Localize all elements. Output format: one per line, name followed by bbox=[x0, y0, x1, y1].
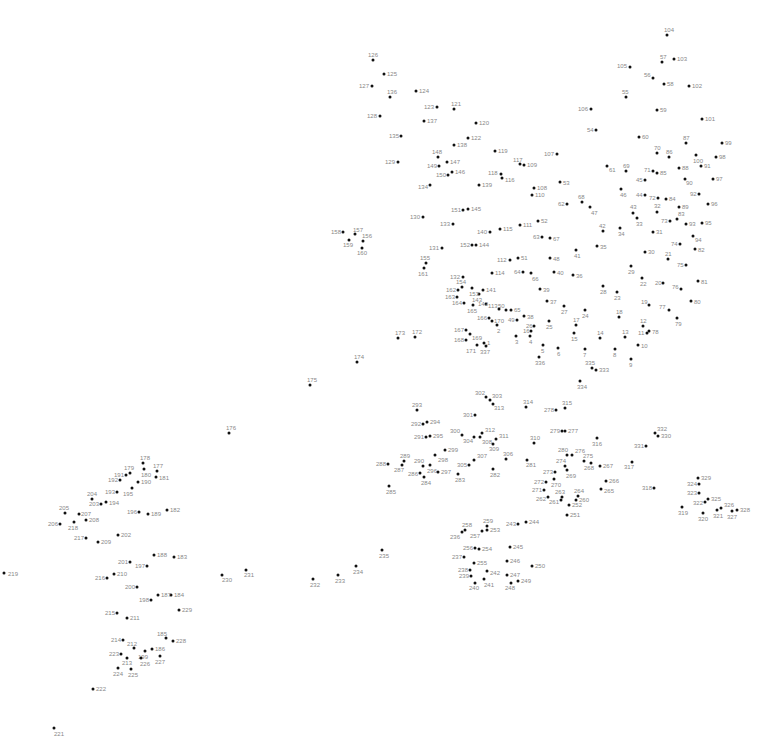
dot-number-label: 298 bbox=[438, 457, 448, 463]
dot-number-label: 162 bbox=[446, 287, 456, 293]
dot-number-label: 189 bbox=[151, 511, 161, 517]
dot-number-label: 21 bbox=[665, 251, 672, 257]
puzzle-dot bbox=[533, 187, 536, 190]
puzzle-dot bbox=[517, 257, 520, 260]
puzzle-dot bbox=[695, 154, 698, 157]
dot-number-label: 137 bbox=[427, 118, 437, 124]
dot-number-label: 260 bbox=[579, 497, 589, 503]
dot-number-label: 97 bbox=[716, 176, 723, 182]
dot-number-label: 280 bbox=[558, 447, 568, 453]
dot-number-label: 268 bbox=[584, 465, 594, 471]
dot-number-label: 87 bbox=[683, 135, 690, 141]
dot-number-label: 1 bbox=[487, 340, 490, 346]
dot-number-label: 274 bbox=[556, 458, 566, 464]
puzzle-dot bbox=[561, 430, 564, 433]
puzzle-dot bbox=[559, 181, 562, 184]
puzzle-dot bbox=[465, 329, 468, 332]
puzzle-dot bbox=[679, 243, 682, 246]
dot-number-label: 198 bbox=[139, 597, 149, 603]
dot-number-label: 75 bbox=[677, 262, 684, 268]
puzzle-dot bbox=[157, 594, 160, 597]
puzzle-dot bbox=[720, 507, 723, 510]
dot-number-label: 8 bbox=[613, 352, 616, 358]
dot-number-label: 70 bbox=[654, 145, 661, 151]
puzzle-dot bbox=[554, 471, 557, 474]
dot-number-label: 112 bbox=[497, 257, 507, 263]
dot-number-label: 117 bbox=[513, 157, 523, 163]
puzzle-dot bbox=[499, 228, 502, 231]
dot-number-label: 152 bbox=[460, 242, 470, 248]
puzzle-dot bbox=[629, 66, 632, 69]
dot-number-label: 182 bbox=[170, 507, 180, 513]
puzzle-dot bbox=[414, 336, 417, 339]
dot-number-label: 20 bbox=[655, 280, 662, 286]
puzzle-dot bbox=[461, 286, 464, 289]
dot-number-label: 172 bbox=[412, 329, 422, 335]
dot-number-label: 150 bbox=[436, 172, 446, 178]
dot-number-label: 218 bbox=[68, 525, 78, 531]
puzzle-dot bbox=[436, 106, 439, 109]
dot-number-label: 186 bbox=[155, 646, 165, 652]
dot-number-label: 285 bbox=[386, 489, 396, 495]
dot-number-label: 190 bbox=[141, 479, 151, 485]
puzzle-dot bbox=[482, 289, 485, 292]
puzzle-dot bbox=[636, 217, 639, 220]
dot-number-label: 169 bbox=[472, 335, 482, 341]
puzzle-dot bbox=[146, 565, 149, 568]
puzzle-dot bbox=[581, 201, 584, 204]
dot-number-label: 164 bbox=[452, 300, 462, 306]
puzzle-dot bbox=[85, 537, 88, 540]
puzzle-dot bbox=[566, 514, 569, 517]
dot-number-label: 22 bbox=[640, 281, 647, 287]
puzzle-dot bbox=[473, 562, 476, 565]
dot-number-label: 92 bbox=[690, 191, 697, 197]
dot-number-label: 208 bbox=[89, 517, 99, 523]
dot-number-label: 289 bbox=[400, 453, 410, 459]
dot-number-label: 272 bbox=[534, 479, 544, 485]
puzzle-dot bbox=[704, 501, 707, 504]
dot-number-label: 113 bbox=[488, 303, 498, 309]
dot-number-label: 331 bbox=[634, 443, 644, 449]
dot-number-label: 72 bbox=[649, 195, 656, 201]
dot-number-label: 330 bbox=[661, 433, 671, 439]
dot-number-label: 301 bbox=[463, 412, 473, 418]
dot-number-label: 61 bbox=[609, 167, 616, 173]
dot-number-label: 308 bbox=[482, 439, 492, 445]
puzzle-dot bbox=[159, 655, 162, 658]
dot-number-label: 203 bbox=[89, 501, 99, 507]
dot-number-label: 130 bbox=[410, 214, 420, 220]
dot-number-label: 106 bbox=[578, 106, 588, 112]
dot-number-label: 292 bbox=[411, 421, 421, 427]
puzzle-dot bbox=[485, 345, 488, 348]
dot-number-label: 310 bbox=[530, 435, 540, 441]
puzzle-dot bbox=[147, 513, 150, 516]
dot-number-label: 7 bbox=[583, 352, 586, 358]
puzzle-dot bbox=[645, 445, 648, 448]
dot-number-label: 287 bbox=[394, 467, 404, 473]
puzzle-dot bbox=[116, 491, 119, 494]
dot-number-label: 313 bbox=[494, 405, 504, 411]
dot-number-label: 3 bbox=[515, 339, 518, 345]
puzzle-dot bbox=[429, 184, 432, 187]
dot-number-label: 282 bbox=[490, 472, 500, 478]
dot-number-label: 133 bbox=[440, 221, 450, 227]
puzzle-dot bbox=[425, 262, 428, 265]
dot-number-label: 109 bbox=[527, 162, 537, 168]
puzzle-dot bbox=[522, 271, 525, 274]
dot-number-label: 179 bbox=[124, 465, 134, 471]
dot-number-label: 229 bbox=[182, 607, 192, 613]
puzzle-dot bbox=[625, 170, 628, 173]
puzzle-dot bbox=[472, 304, 475, 307]
puzzle-dot bbox=[690, 300, 693, 303]
puzzle-dot bbox=[150, 599, 153, 602]
dot-number-label: 145 bbox=[471, 206, 481, 212]
dot-number-label: 316 bbox=[592, 441, 602, 447]
dot-number-label: 56 bbox=[644, 72, 651, 78]
dot-number-label: 205 bbox=[59, 505, 69, 511]
dot-number-label: 209 bbox=[101, 539, 111, 545]
dot-number-label: 180 bbox=[141, 472, 151, 478]
puzzle-dot bbox=[397, 337, 400, 340]
dot-number-label: 277 bbox=[568, 428, 578, 434]
puzzle-dot bbox=[437, 156, 440, 159]
dot-number-label: 10 bbox=[641, 343, 648, 349]
